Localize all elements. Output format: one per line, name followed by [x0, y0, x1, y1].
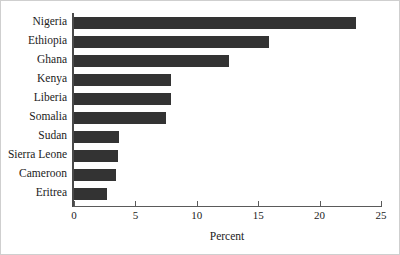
- bar-row: Kenya: [1, 74, 400, 86]
- x-tick-mark: [135, 201, 136, 207]
- x-axis-line: [73, 206, 382, 207]
- x-axis-title: Percent: [1, 230, 400, 242]
- bar-row: Sudan: [1, 131, 400, 143]
- category-label: Nigeria: [1, 15, 67, 27]
- bar-row: Sierra Leone: [1, 150, 400, 162]
- category-label: Somalia: [1, 110, 67, 122]
- bar: [74, 169, 116, 181]
- bar-row: Liberia: [1, 93, 400, 105]
- x-tick-label: 5: [133, 209, 139, 221]
- category-label: Kenya: [1, 72, 67, 84]
- bar-row: Cameroon: [1, 169, 400, 181]
- x-tick-mark: [74, 201, 75, 207]
- x-tick-mark: [197, 201, 198, 207]
- bar-row: Ethiopia: [1, 36, 400, 48]
- bar: [74, 131, 119, 143]
- x-tick-mark: [258, 201, 259, 207]
- bar-row: Eritrea: [1, 188, 400, 200]
- bar: [74, 17, 356, 29]
- x-tick-mark: [320, 201, 321, 207]
- category-label: Cameroon: [1, 167, 67, 179]
- bar: [74, 55, 229, 67]
- category-label: Sierra Leone: [1, 148, 67, 160]
- bar: [74, 36, 269, 48]
- bar-chart: NigeriaEthiopiaGhanaKenyaLiberiaSomaliaS…: [0, 0, 400, 255]
- x-tick-label: 10: [191, 209, 202, 221]
- bar-row: Somalia: [1, 112, 400, 124]
- x-tick-label: 0: [71, 209, 77, 221]
- bar-row: Ghana: [1, 55, 400, 67]
- x-tick-label: 15: [253, 209, 264, 221]
- category-label: Sudan: [1, 129, 67, 141]
- category-label: Ghana: [1, 53, 67, 65]
- bar: [74, 112, 166, 124]
- category-label: Liberia: [1, 91, 67, 103]
- x-tick-label: 20: [314, 209, 325, 221]
- category-label: Eritrea: [1, 186, 67, 198]
- x-tick-mark: [381, 201, 382, 207]
- bar: [74, 150, 118, 162]
- bar: [74, 188, 107, 200]
- bar: [74, 93, 171, 105]
- x-tick-label: 25: [376, 209, 387, 221]
- bar-row: Nigeria: [1, 17, 400, 29]
- bar: [74, 74, 171, 86]
- category-label: Ethiopia: [1, 34, 67, 46]
